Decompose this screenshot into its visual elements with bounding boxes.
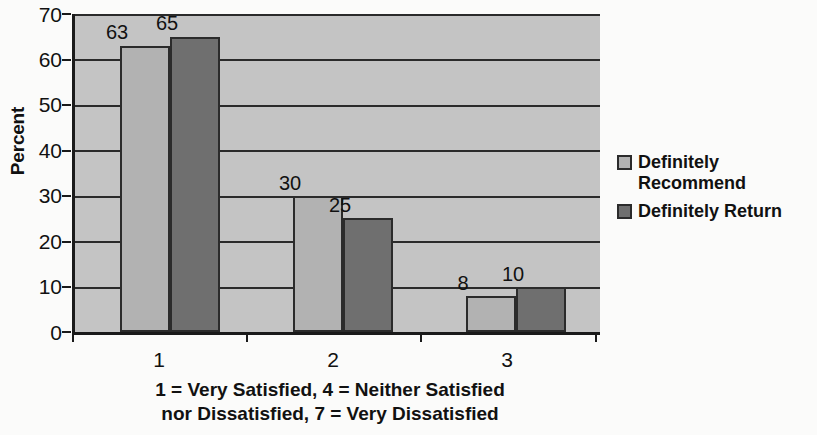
legend-item-definitely-return[interactable]: Definitely Return <box>617 201 817 222</box>
x-tick-mark-3 <box>595 332 597 342</box>
x-axis-caption-line2: nor Dissatisfied, 7 = Very Dissatisfied <box>60 402 600 426</box>
chart-legend: Definitely Recommend Definitely Return <box>617 152 817 230</box>
bar-value-return-1: 65 <box>137 13 197 33</box>
bar-recommend-2 <box>293 196 343 332</box>
bar-value-recommend-2: 30 <box>260 173 320 193</box>
bar-return-1 <box>170 37 220 332</box>
y-tick-label-0: 0 <box>16 322 62 343</box>
x-tick-label-2: 2 <box>293 349 373 370</box>
legend-label-recommend: Definitely Recommend <box>638 152 798 193</box>
y-tick-mark-60 <box>62 59 71 61</box>
y-tick-mark-40 <box>62 150 71 152</box>
y-tick-mark-20 <box>62 241 71 243</box>
y-tick-mark-30 <box>62 195 71 197</box>
x-tick-mark-2 <box>420 332 422 342</box>
x-axis-caption: 1 = Very Satisfied, 4 = Neither Satisfie… <box>60 378 600 426</box>
bar-value-return-2: 25 <box>310 195 370 215</box>
bar-recommend-1 <box>120 46 170 332</box>
x-axis-caption-line1: 1 = Very Satisfied, 4 = Neither Satisfie… <box>60 378 600 402</box>
legend-label-return: Definitely Return <box>638 201 782 222</box>
bar-recommend-3 <box>466 296 516 332</box>
y-tick-label-20: 20 <box>16 231 62 252</box>
bar-value-return-3: 10 <box>483 264 543 284</box>
y-tick-label-30: 30 <box>16 185 62 206</box>
y-tick-mark-70 <box>62 13 71 15</box>
legend-swatch-icon-recommend <box>617 155 632 170</box>
y-tick-label-50: 50 <box>16 94 62 115</box>
legend-item-definitely-recommend[interactable]: Definitely Recommend <box>617 152 817 193</box>
x-tick-label-1: 1 <box>119 349 199 370</box>
y-tick-label-10: 10 <box>16 276 62 297</box>
x-axis-line <box>72 332 600 335</box>
bar-return-2 <box>343 218 393 332</box>
y-tick-label-40: 40 <box>16 140 62 161</box>
y-tick-mark-10 <box>62 286 71 288</box>
x-tick-mark-1 <box>246 332 248 342</box>
y-tick-label-70: 70 <box>16 4 62 25</box>
legend-swatch-icon-return <box>617 204 632 219</box>
y-tick-label-60: 60 <box>16 49 62 70</box>
y-tick-mark-50 <box>62 104 71 106</box>
y-axis-ticks: 70 60 50 40 30 20 10 0 <box>12 0 62 435</box>
x-tick-mark-0 <box>72 332 74 342</box>
chart-screenshot: Percent 70 60 50 40 30 20 10 0 <box>0 0 817 435</box>
bar-return-3 <box>516 287 566 332</box>
y-tick-mark-0 <box>62 331 71 333</box>
x-tick-label-3: 3 <box>467 349 547 370</box>
